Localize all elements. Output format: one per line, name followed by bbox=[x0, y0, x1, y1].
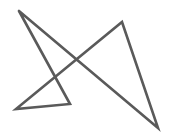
line-drawing bbox=[0, 0, 173, 137]
star-like-polyline bbox=[16, 11, 158, 128]
